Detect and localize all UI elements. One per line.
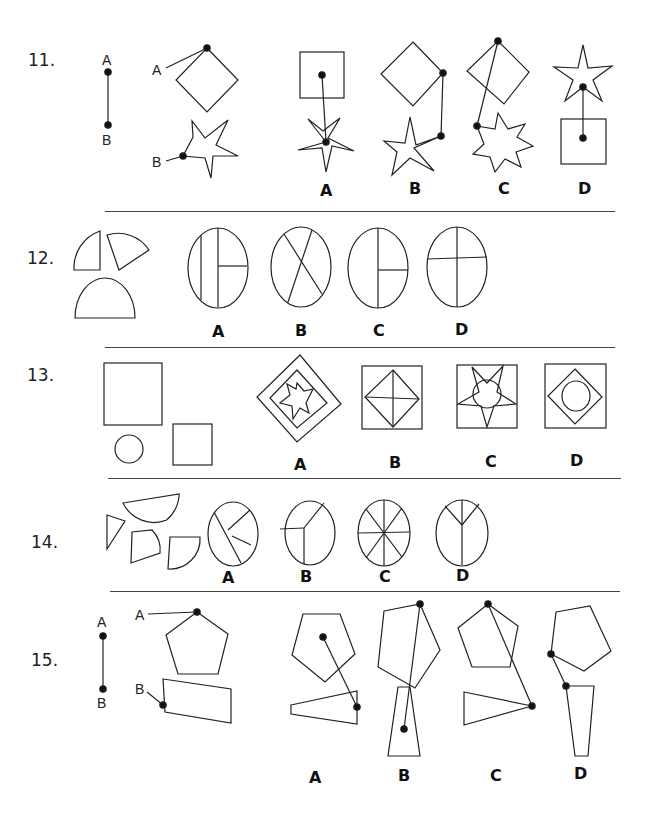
trapezoid-shape-b [147,679,231,723]
q15-option-d-label[interactable]: D [574,764,587,783]
q15-option-c-figure [458,601,535,725]
q15-option-b-figure [378,601,440,756]
q15-option-d-figure [548,606,611,756]
question-15-figures: A B A B [0,0,655,819]
key-label-b: B [97,695,106,711]
q15-option-a-label[interactable]: A [309,768,321,787]
q15-option-a-figure [291,614,360,724]
shape-label-b: B [135,681,144,697]
shape-label-a: A [135,607,145,623]
key-label-a: A [97,614,107,630]
q15-option-c-label[interactable]: C [490,766,502,785]
pentagon-shape-a [148,609,228,674]
q15-option-b-label[interactable]: B [398,766,410,785]
key-segment [100,633,106,692]
